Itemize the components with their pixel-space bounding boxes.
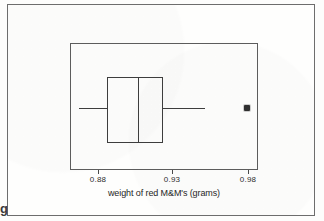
boxplot-chart: 0.88 0.93 0.98 weight of red M&M's (gram…: [0, 0, 324, 221]
outlier-point-icon: [244, 105, 250, 111]
whisker-lower: [79, 108, 107, 109]
x-axis-title: weight of red M&M's (grams): [70, 188, 258, 198]
plot-frame: [70, 43, 258, 170]
interquartile-box: [107, 77, 163, 143]
median-line: [138, 77, 139, 143]
x-tick-label-2: 0.98: [228, 175, 268, 184]
whisker-upper: [163, 108, 205, 109]
outlier-marker: [244, 105, 250, 111]
x-tick-0: [98, 170, 99, 174]
x-tick-2: [248, 170, 249, 174]
x-tick-label-0: 0.88: [78, 175, 118, 184]
x-tick-1: [172, 170, 173, 174]
x-tick-label-1: 0.93: [152, 175, 192, 184]
